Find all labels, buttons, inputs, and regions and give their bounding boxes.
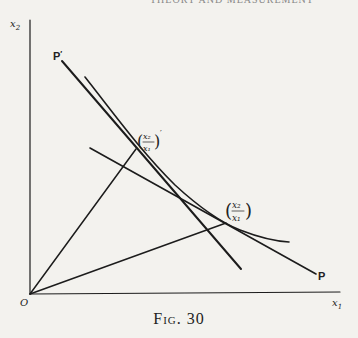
lower-label-paren-right: ) xyxy=(245,200,252,221)
ray-upper-tangency xyxy=(30,149,136,294)
upper-label-prime: ′ xyxy=(160,128,162,137)
figure-caption: Fig. 30 xyxy=(0,310,358,328)
y-axis-label: x2 xyxy=(10,18,21,32)
budget-line-p-prime-label: P′ xyxy=(53,49,62,62)
lower-label-denominator: x₁ xyxy=(232,213,241,223)
indifference-curve xyxy=(85,77,289,242)
budget-line-p xyxy=(90,148,316,274)
ray-lower-tangency xyxy=(30,223,226,294)
x-axis-label: x1 xyxy=(332,297,342,311)
upper-tangency-label: ( x₂ x₁ ) ′ xyxy=(137,128,162,153)
lower-label-numerator: x₂ xyxy=(232,200,241,210)
lower-tangency-label: ( x₂ x₁ ) xyxy=(225,200,252,223)
indifference-diagram: x2 x1 O P′ P ( x₂ x₁ ) ′ ( x₂ x₁ ) xyxy=(0,0,358,338)
origin-label: O xyxy=(20,297,28,308)
upper-label-numerator: x₂ xyxy=(143,132,151,141)
upper-label-denominator: x₁ xyxy=(143,144,151,153)
budget-line-p-prime xyxy=(62,61,241,269)
budget-line-p-label: P xyxy=(318,270,325,282)
x-axis xyxy=(30,292,340,294)
lower-label-paren-left: ( xyxy=(225,200,232,221)
